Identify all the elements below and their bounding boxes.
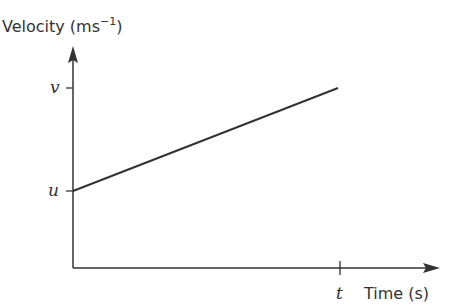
velocity-line	[73, 88, 338, 191]
velocity-time-graph: Velocity (ms−1) v u t Time (s)	[0, 0, 471, 308]
x-axis-label: Time (s)	[363, 284, 429, 303]
u-tick-label: u	[48, 180, 59, 200]
v-tick-label: v	[50, 77, 60, 97]
y-axis-label: Velocity (ms−1)	[2, 15, 122, 36]
t-tick-label: t	[336, 283, 343, 303]
